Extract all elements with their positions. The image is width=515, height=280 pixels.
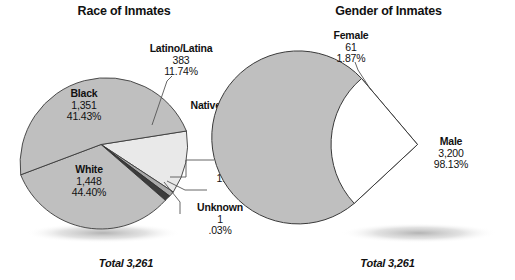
slice-label-unknown: Unknown 1 .03%: [186, 202, 254, 237]
slice-label-white-pct: 44.40%: [49, 187, 129, 199]
slice-label-male: Male 3,200 98.13%: [421, 136, 481, 171]
slice-label-male-name: Male: [421, 136, 481, 148]
chart-panel-gender: Gender of Inmates Female 61 1.87% Male 3…: [258, 0, 515, 280]
chart-total-gender: Total 3,261: [259, 257, 515, 269]
slice-label-female-pct: 1.87%: [316, 53, 386, 65]
slice-label-male-pct: 98.13%: [421, 159, 481, 171]
slice-label-black-pct: 41.43%: [44, 111, 124, 123]
slice-label-female: Female 61 1.87%: [316, 30, 386, 65]
slice-label-latino-name: Latino/Latina: [133, 43, 229, 55]
pie-shadow: [341, 223, 497, 243]
slice-label-black: Black 1,351 41.43%: [44, 88, 124, 123]
slice-label-white: White 1,448 44.40%: [49, 164, 129, 199]
slice-label-latino: Latino/Latina 383 11.74%: [133, 43, 229, 78]
slice-label-female-name: Female: [316, 30, 386, 42]
slice-label-latino-pct: 11.74%: [133, 66, 229, 78]
slice-label-unknown-pct: .03%: [186, 225, 254, 237]
slice-label-black-name: Black: [44, 88, 124, 100]
chart-total-race: Total 3,261: [0, 257, 255, 269]
slice-label-white-name: White: [49, 164, 129, 176]
